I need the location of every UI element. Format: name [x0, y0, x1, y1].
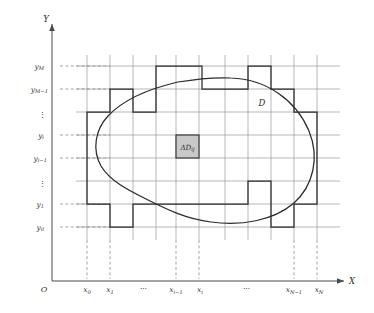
staircase-polygon — [87, 66, 317, 227]
y-leader-lines — [60, 66, 110, 227]
x-tick-label-1: x1 — [106, 285, 113, 295]
grid-lines — [76, 55, 340, 240]
cell-label-subscript: ij — [191, 146, 195, 153]
region-d-label: D — [258, 98, 266, 108]
partition-diagram: X Y O D ΔDij x0 x1 ⋯ xi−1 xi ⋯ x — [0, 0, 374, 313]
figure-root: X Y O D ΔDij x0 x1 ⋯ xi−1 xi ⋯ x — [0, 0, 374, 313]
x-tick-labels: x0 x1 ⋯ xi−1 xi ⋯ xN−1 xN — [83, 284, 324, 295]
y-tick-labels: yM yM−1 ⋮ yi yi−1 ⋮ y1 y0 — [30, 62, 48, 233]
x-tick-label-n-minus-1: xN−1 — [286, 285, 302, 295]
x-axis-label: X — [348, 276, 356, 286]
y-tick-label-m: yM — [34, 62, 45, 72]
x-tick-label-0: x0 — [83, 285, 91, 295]
x-axis — [52, 278, 344, 284]
x-tick-ellipsis-right: ⋯ — [243, 284, 250, 293]
x-tick-label-i-minus-1: xi−1 — [169, 285, 182, 295]
x-tick-label-n: xN — [315, 285, 324, 295]
y-tick-label-i: yi — [37, 131, 44, 141]
x-tick-ellipsis-left: ⋯ — [140, 284, 147, 293]
y-tick-label-i-minus-1: yi−1 — [33, 154, 48, 164]
y-tick-label-1: y1 — [36, 200, 45, 210]
cell-label-main: ΔD — [179, 143, 191, 152]
y-axis-label: Y — [43, 14, 50, 24]
x-tick-label-i: xi — [197, 285, 203, 295]
region-boundary-curve — [96, 78, 314, 224]
x-drop-lines — [87, 240, 317, 279]
y-tick-ellipsis-lower: ⋮ — [39, 179, 46, 188]
y-tick-label-m-minus-1: yM−1 — [30, 85, 48, 95]
y-tick-label-0: y0 — [36, 223, 45, 233]
origin-label: O — [41, 285, 48, 294]
y-axis — [49, 24, 55, 281]
y-tick-ellipsis-upper: ⋮ — [39, 110, 46, 119]
